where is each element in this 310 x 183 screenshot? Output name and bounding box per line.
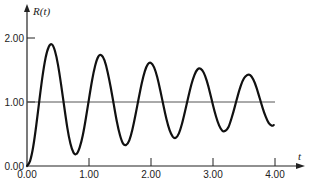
x-tick-label: 3.00 [203, 169, 223, 180]
y-tick-label: 1.00 [5, 97, 25, 108]
y-axis-title: R(t) [32, 5, 50, 18]
x-axis-arrow-icon [296, 163, 305, 169]
y-axis-arrow-icon [24, 4, 30, 12]
x-tick-label: 4.00 [265, 169, 285, 180]
y-tick-label: 2.00 [5, 33, 25, 44]
x-axis-title: t [298, 150, 302, 162]
axes: R(t) t [24, 4, 305, 169]
x-ticks: 0.001.002.003.004.00 [17, 158, 285, 180]
x-tick-label: 2.00 [141, 169, 161, 180]
y-tick-label: 0.00 [5, 161, 25, 172]
series-line [27, 44, 274, 166]
x-tick-label: 1.00 [79, 169, 99, 180]
line-chart: R(t) t 0.001.002.003.004.00 0.001.002.00 [0, 0, 310, 183]
